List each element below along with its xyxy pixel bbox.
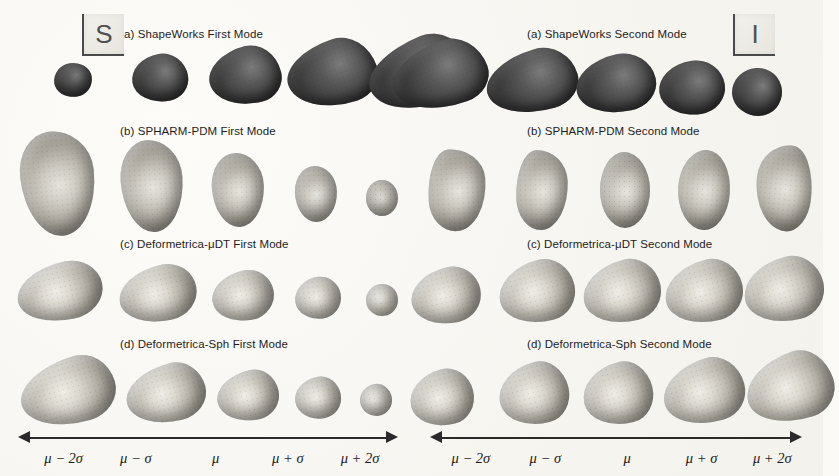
axis-tick-label: μ + 2σ xyxy=(341,450,380,467)
axis-line xyxy=(440,437,792,439)
shape-texture xyxy=(515,149,570,231)
marker-superior: S xyxy=(82,14,124,56)
orientation-letter: S xyxy=(84,19,124,50)
shape-texture xyxy=(203,39,287,113)
arrow-left-icon xyxy=(430,431,442,443)
shape-texture xyxy=(128,50,191,107)
shape-d-3 xyxy=(212,365,283,427)
shape-texture xyxy=(730,66,783,117)
row-title-c-left-panel: (c) Deformetrica-μDT First Mode xyxy=(120,238,289,250)
shape-texture xyxy=(212,365,283,427)
axis-tick-label: μ + σ xyxy=(686,450,717,467)
shape-texture xyxy=(425,147,489,233)
axis-tick-label: μ − 2σ xyxy=(44,450,83,467)
shape-texture xyxy=(752,142,817,233)
row-title-d-right-panel: (d) Deformetrica-Sph Second Mode xyxy=(527,338,712,350)
shape-texture xyxy=(210,152,266,229)
shape-d-5 xyxy=(738,342,839,434)
shape-a-4 xyxy=(656,57,729,120)
shape-texture xyxy=(292,274,343,322)
shape-texture xyxy=(577,355,660,432)
shape-c-3 xyxy=(208,266,278,326)
shape-d-1 xyxy=(13,347,123,437)
axis-line xyxy=(28,437,388,439)
shape-texture xyxy=(737,249,830,330)
shape-b-4 xyxy=(294,165,338,222)
arrow-right-icon xyxy=(790,431,802,443)
shape-a-3 xyxy=(571,47,661,120)
shape-b-2 xyxy=(118,138,186,234)
shape-c-4 xyxy=(292,274,343,322)
shape-texture xyxy=(675,148,732,231)
row-title-b-left-panel: (b) SPHARM-PDM First Mode xyxy=(120,125,276,137)
shape-texture xyxy=(364,282,399,317)
shape-b-2 xyxy=(515,149,570,231)
shape-texture xyxy=(118,138,186,234)
shape-texture xyxy=(12,255,108,330)
shape-texture xyxy=(406,261,486,330)
shape-texture xyxy=(13,347,123,437)
shape-a-3 xyxy=(203,39,287,113)
shape-d-2 xyxy=(493,355,576,432)
shape-texture xyxy=(738,342,839,434)
shape-texture xyxy=(52,61,94,100)
shape-texture xyxy=(120,356,212,432)
shape-texture xyxy=(493,253,582,332)
shape-d-4 xyxy=(656,350,752,434)
shape-texture xyxy=(358,382,394,418)
shape-texture xyxy=(292,373,345,422)
shape-a-2 xyxy=(479,40,585,125)
orientation-letter: I xyxy=(735,19,775,50)
shape-texture xyxy=(114,259,202,330)
shape-a-2 xyxy=(128,50,191,107)
sigma-axis-left-panel: μ − 2σμ − σμμ + σμ + 2σ xyxy=(18,428,398,448)
shape-b-1 xyxy=(16,127,101,239)
shape-b-3 xyxy=(600,152,650,228)
shape-d-2 xyxy=(120,356,212,432)
shape-texture xyxy=(208,266,278,326)
shape-texture xyxy=(577,252,668,331)
arrow-left-icon xyxy=(18,431,30,443)
shape-texture xyxy=(294,165,338,222)
shape-b-3 xyxy=(210,152,266,229)
shape-texture xyxy=(600,152,650,228)
shape-b-5 xyxy=(752,142,817,233)
left-panel: (a) ShapeWorks First Mode(b) SPHARM-PDM … xyxy=(0,0,411,476)
shape-a-5 xyxy=(730,66,783,117)
axis-tick-label: μ − σ xyxy=(530,450,561,467)
shape-c-1 xyxy=(406,261,486,330)
shape-a-4 xyxy=(279,29,385,120)
shape-d-1 xyxy=(404,363,480,433)
axis-tick-label: μ − 2σ xyxy=(452,450,491,467)
arrow-right-icon xyxy=(386,431,398,443)
shape-texture xyxy=(571,47,661,120)
axis-tick-label: μ xyxy=(624,450,631,467)
shape-b-4 xyxy=(675,148,732,231)
shape-c-2 xyxy=(493,253,582,332)
shape-a-1 xyxy=(52,61,94,100)
shape-c-4 xyxy=(659,252,750,331)
shape-c-3 xyxy=(577,252,668,331)
shape-texture xyxy=(656,57,729,120)
axis-tick-label: μ + σ xyxy=(272,450,303,467)
marker-inferior: I xyxy=(733,14,775,56)
row-title-c-right-panel: (c) Deformetrica-μDT Second Mode xyxy=(527,238,712,250)
shape-d-3 xyxy=(577,355,660,432)
shape-c-5 xyxy=(364,282,399,317)
axis-tick-label: μ xyxy=(212,450,219,467)
axis-tick-label: μ − σ xyxy=(120,450,151,467)
shape-d-4 xyxy=(292,373,345,422)
shape-c-5 xyxy=(737,249,830,330)
shape-texture xyxy=(656,350,752,434)
shape-texture xyxy=(366,180,398,216)
shape-texture xyxy=(279,29,385,120)
row-title-a-right-panel: (a) ShapeWorks Second Mode xyxy=(527,28,687,40)
shape-b-5 xyxy=(366,180,398,216)
row-title-d-left-panel: (d) Deformetrica-Sph First Mode xyxy=(120,338,288,350)
row-title-b-right-panel: (b) SPHARM-PDM Second Mode xyxy=(527,125,700,137)
shape-c-1 xyxy=(12,255,108,330)
shape-texture xyxy=(404,363,480,433)
shape-texture xyxy=(493,355,576,432)
sigma-axis-right-panel: μ − 2σμ − σμμ + σμ + 2σ xyxy=(430,428,802,448)
